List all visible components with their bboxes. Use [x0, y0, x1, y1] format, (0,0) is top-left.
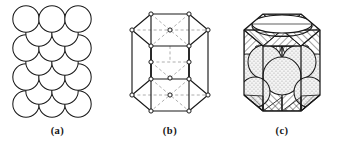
lattice-point: [149, 109, 153, 113]
lattice-point: [206, 28, 210, 32]
panel-a-caption: (a): [0, 126, 115, 137]
panel-c-caption: (c): [225, 126, 339, 137]
bottom-rim-wedges: [244, 95, 320, 111]
figure-hcp-structure: (a): [0, 0, 339, 149]
lattice-point: [187, 12, 191, 16]
lattice-point: [149, 12, 153, 16]
lattice-point-face-center: [168, 28, 172, 32]
panel-c-cutaway-solid: (c): [225, 0, 339, 149]
panel-b-artwork: [115, 0, 225, 125]
top-face-group: [225, 0, 339, 50]
lattice-point-midplane: [187, 60, 191, 64]
sphere: [13, 6, 39, 32]
lattice-point: [130, 28, 134, 32]
lattice-point-midplane: [149, 60, 153, 64]
lattice-points-group: [130, 12, 210, 113]
lattice-point: [206, 93, 210, 97]
panel-b-caption: (b): [115, 126, 225, 137]
panel-a-artwork: [0, 0, 115, 125]
panel-a-hard-sphere-model: (a): [0, 0, 115, 149]
lattice-point-midplane: [168, 76, 172, 80]
lattice-point: [149, 44, 153, 48]
panel-b-wireframe-unit-cell: (b): [115, 0, 225, 149]
panel-c-artwork: [225, 0, 339, 125]
lattice-point: [187, 44, 191, 48]
lattice-point: [187, 77, 191, 81]
lattice-point-face-center: [168, 93, 172, 97]
lattice-point: [187, 109, 191, 113]
sphere: [39, 6, 65, 32]
lattice-point: [130, 93, 134, 97]
sphere: [65, 6, 91, 32]
lattice-point: [149, 77, 153, 81]
